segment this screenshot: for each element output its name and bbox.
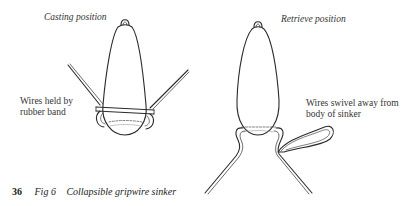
casting-sinker-drawing (68, 20, 189, 135)
retrieve-position-heading: Retrieve position (281, 14, 346, 25)
figure-caption: 36 Fig 6 Collapsible gripwire sinker (12, 186, 176, 197)
annotation-line: Wires swivel away from (306, 98, 399, 109)
figure-collapsible-gripwire-sinker: Casting position Retrieve position Wires… (0, 0, 401, 206)
annotation-line: rubber band (20, 107, 73, 118)
page-number: 36 (12, 186, 22, 197)
rubber-band-annotation: Wires held by rubber band (20, 96, 73, 118)
casting-position-heading: Casting position (44, 12, 107, 23)
annotation-line: Wires held by (20, 96, 73, 107)
figure-title: Collapsible gripwire sinker (66, 186, 176, 197)
annotation-line: body of sinker (306, 109, 399, 120)
figure-number: Fig 6 (35, 186, 56, 197)
swivel-annotation: Wires swivel away from body of sinker (306, 98, 399, 120)
